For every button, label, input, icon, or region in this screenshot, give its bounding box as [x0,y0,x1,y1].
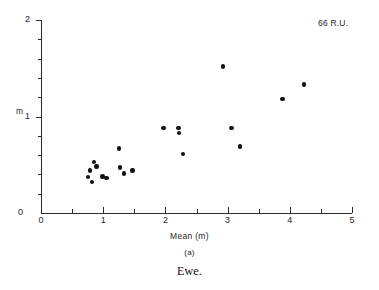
x-tick-label: 4 [287,215,292,225]
data-point [161,126,165,130]
data-point [221,64,225,68]
data-point [88,168,92,172]
data-point [94,164,98,168]
data-point [130,168,134,172]
data-point [118,165,122,169]
data-point [122,171,126,175]
figure-panel: 66 R.U. 012345012 m Mean (m) (a) Ewe. [0,0,379,290]
x-tick-label: 3 [225,215,230,225]
x-tick-label: 2 [163,215,168,225]
data-point [176,126,180,130]
x-tick-label: 1 [101,215,106,225]
caption-panel: (a) Ewe. [0,248,379,279]
x-tick-label: 0 [38,215,43,225]
y-tick-label: 1 [25,111,30,121]
data-point [280,97,284,101]
data-point [104,176,108,180]
y-tick-label: 0 [18,207,23,217]
figure-caption: Ewe. [0,264,379,279]
x-axis-title: Mean (m) [0,231,379,241]
x-tick-label: 5 [349,215,354,225]
subfigure-label: (a) [0,248,379,257]
x-tick-major [352,207,353,213]
data-point [92,160,96,164]
scatter-plot-area [41,20,352,213]
data-point [117,146,121,150]
data-point [238,144,242,148]
data-point [229,126,233,130]
y-tick-label: 2 [25,14,30,24]
y-axis-title: m [16,106,23,116]
